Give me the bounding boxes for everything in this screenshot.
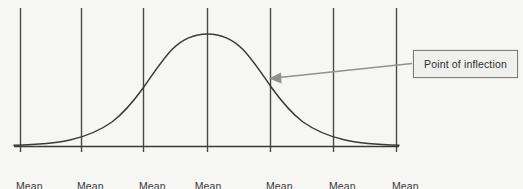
axis-tick-label-minus-1sd: Mean – 1 s.d. bbox=[139, 154, 174, 189]
axis-tick-label-line1: Mean bbox=[266, 180, 305, 189]
axis-tick-label-line1: Mean bbox=[77, 180, 112, 189]
bell-curve-path bbox=[14, 34, 399, 145]
axis-tick-label-plus-3sd: Mean + 3 s.d. bbox=[392, 154, 428, 189]
axis-tick-label-plus-2sd: Mean + 2 s.d. bbox=[329, 154, 365, 189]
axis-tick-label-line1: Mean bbox=[139, 180, 174, 189]
axis-tick-label-line1: Mean bbox=[190, 180, 226, 189]
callout-label: Point of inflection bbox=[424, 58, 507, 70]
gridlines bbox=[21, 8, 397, 152]
axis-tick-label-line1: Mean bbox=[16, 180, 51, 189]
axis-tick-label-minus-3sd: Mean – 3 s.d. bbox=[16, 154, 51, 189]
normal-distribution-figure: Mean – 3 s.d. Mean – 2 s.d. Mean – 1 s.d… bbox=[0, 0, 523, 189]
axis-tick-label-plus-1sd: Mean + 1 s.d. bbox=[266, 154, 305, 189]
axis-tick-label-line1: Mean bbox=[329, 180, 365, 189]
point-of-inflection-callout: Point of inflection bbox=[413, 50, 518, 78]
annotation-arrow bbox=[269, 64, 412, 84]
axis-tick-label-minus-2sd: Mean – 2 s.d. bbox=[77, 154, 112, 189]
axis-tick-label-mean: Mean bbox=[190, 154, 226, 189]
axis-tick-label-line1: Mean bbox=[392, 180, 428, 189]
annotation-arrow-line bbox=[279, 64, 412, 78]
